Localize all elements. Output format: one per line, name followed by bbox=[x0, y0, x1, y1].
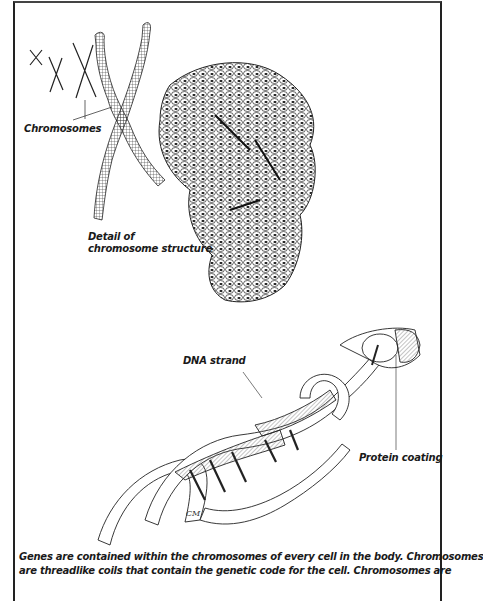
large-chromosome-icon bbox=[94, 23, 165, 220]
detail-label-line2: chromosome structure bbox=[88, 243, 212, 254]
protein-coating-label: Protein coating bbox=[359, 452, 442, 463]
chromosomes-pointer-line bbox=[73, 107, 112, 120]
caption-line-2: are threadlike coils that contain the ge… bbox=[19, 564, 437, 578]
caption-line-1: Genes are contained within the chromosom… bbox=[19, 550, 437, 564]
artist-signature: CM bbox=[186, 509, 201, 518]
figure-caption: Genes are contained within the chromosom… bbox=[19, 550, 437, 578]
chromosomes-label: Chromosomes bbox=[24, 123, 101, 134]
small-chromosomes-icon bbox=[30, 43, 96, 98]
dna-strand-pointer-line bbox=[243, 372, 262, 398]
coiled-chromosome-detail-icon bbox=[159, 63, 315, 302]
dna-strand-label: DNA strand bbox=[183, 355, 246, 366]
dna-helix-icon bbox=[98, 328, 420, 545]
detail-label-line1: Detail of bbox=[88, 231, 134, 242]
